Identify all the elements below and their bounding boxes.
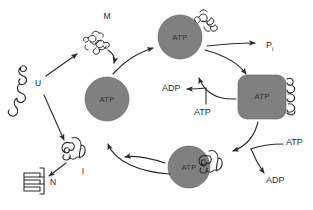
misfolded-chain-glyph — [83, 31, 109, 54]
label-adp-upper: ADP — [162, 83, 181, 93]
line-atp-input-lower — [251, 144, 283, 149]
arrow-unfolded-to-intermediate — [44, 95, 64, 140]
arrow-to-phosphate — [207, 43, 255, 46]
chaperone-right[interactable]: ATP — [238, 75, 295, 119]
chaperone-bottom-label: ATP — [182, 163, 197, 172]
unfolded-chain-glyph — [8, 66, 26, 116]
protein-folding-cycle-figure: U M I N ATP — [0, 0, 313, 210]
label-adp-lower: ADP — [266, 175, 285, 185]
intermediate-chain-glyph — [62, 137, 85, 160]
chaperone-top-label: ATP — [173, 33, 188, 42]
state-label-unfolded: U — [35, 78, 41, 88]
arrow-top-to-right-chaperone — [205, 50, 246, 74]
arrow-bind-to-top-chaperone — [113, 48, 153, 74]
arrow-bottom-to-center-chaperone — [108, 144, 170, 174]
diagram-canvas: U M I N ATP — [0, 0, 313, 210]
chaperone-top[interactable]: ATP — [158, 10, 217, 59]
state-label-misfolded: M — [103, 11, 110, 21]
chaperone-center[interactable]: ATP — [85, 77, 129, 121]
state-label-native: N — [50, 177, 56, 187]
arrow-intermediate-to-native — [49, 163, 66, 176]
chaperone-bottom[interactable]: ATP — [168, 146, 222, 188]
label-atp-upper: ATP — [194, 107, 211, 117]
chaperone-right-label: ATP — [255, 92, 270, 101]
arrow-unfolded-to-misfolded — [46, 54, 77, 76]
native-protein-glyph — [24, 168, 44, 194]
state-label-intermediate: I — [82, 166, 84, 176]
label-phosphate: Pi — [266, 40, 273, 51]
chaperone-center-label: ATP — [100, 95, 115, 104]
arrow-adp-release-lower — [251, 149, 264, 173]
arrow-adp-release — [187, 88, 206, 89]
arrow-right-to-bottom-chaperone — [233, 122, 258, 151]
label-atp-lower: ATP — [286, 137, 303, 147]
arrow-bottom-to-intermediate — [125, 156, 165, 163]
arrow-misfolded-down — [108, 50, 114, 63]
